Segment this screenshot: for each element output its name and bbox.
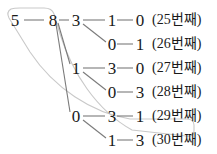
node-row2-digit4: 0 <box>132 60 148 77</box>
connector-0-row6 <box>83 120 106 138</box>
node-level1-8: 8 <box>45 12 61 29</box>
node-row1-digit3: 0 <box>104 36 120 53</box>
node-level2-1: 1 <box>68 60 84 77</box>
node-row2-digit3: 3 <box>104 60 120 77</box>
tree-diagram-canvas: 5 8 3 1 0 1 0 (25번째) 0 1 (26번째) 3 0 (27번… <box>0 0 217 154</box>
node-row1-digit4: 1 <box>132 36 148 53</box>
node-row0-digit3: 1 <box>104 12 120 29</box>
row-label-29th: (29번째) <box>152 109 201 123</box>
row-label-30th: (30번째) <box>152 133 201 147</box>
node-row3-digit4: 3 <box>132 84 148 101</box>
node-row5-digit3: 1 <box>104 132 120 149</box>
node-level2-0: 3 <box>68 12 84 29</box>
node-level2-2: 0 <box>68 108 84 125</box>
row-label-26th: (26번째) <box>152 37 201 51</box>
node-row0-digit4: 0 <box>132 12 148 29</box>
connector-3-row2 <box>83 24 106 42</box>
row-label-25th: (25번째) <box>152 13 201 27</box>
node-row4-digit3: 3 <box>104 108 120 125</box>
node-row4-digit4: 1 <box>132 108 148 125</box>
row-label-28th: (28번째) <box>152 85 201 99</box>
row-label-27th: (27번째) <box>152 61 201 75</box>
node-root-5: 5 <box>7 12 23 29</box>
node-row3-digit3: 0 <box>104 84 120 101</box>
connector-8-1 <box>58 23 70 64</box>
node-row5-digit4: 3 <box>132 132 148 149</box>
